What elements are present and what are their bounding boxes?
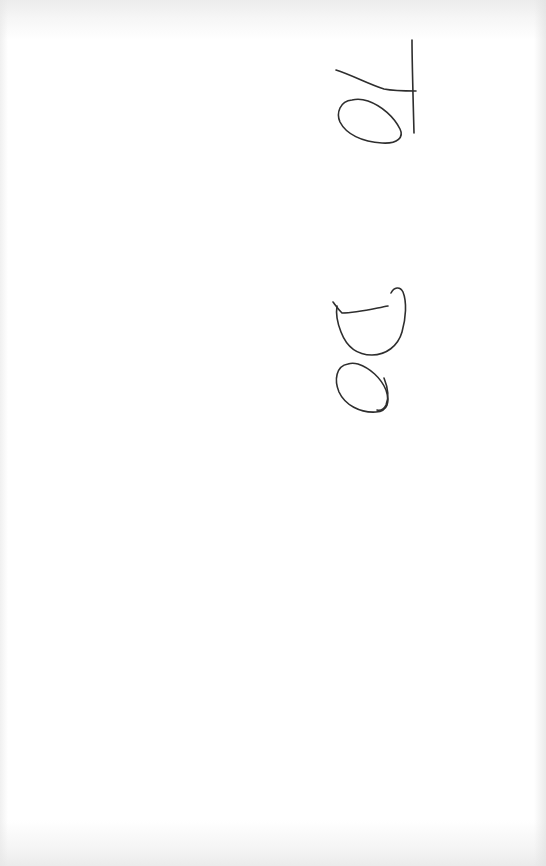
handwritten-letter-t <box>336 40 416 133</box>
handwritten-letter-o <box>339 99 402 143</box>
handwriting-ink <box>0 0 546 866</box>
letter-o2-loop <box>336 363 387 412</box>
handwritten-letter-o-2 <box>336 363 387 412</box>
letter-o-loop <box>339 99 402 143</box>
letter-t-stem <box>412 40 414 133</box>
letter-d-bow <box>337 288 406 355</box>
handwritten-word-to <box>336 40 416 143</box>
scanned-page: TO DO <box>0 0 546 866</box>
letter-d-stem <box>333 302 388 313</box>
handwritten-letter-d <box>333 288 406 355</box>
letter-t-crossbar <box>336 70 416 91</box>
handwritten-word-do <box>333 288 406 412</box>
